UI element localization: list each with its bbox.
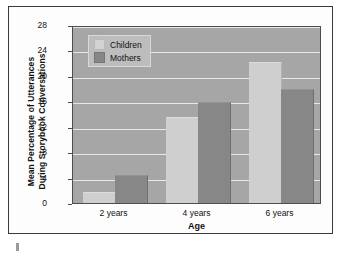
page-artifact-mark	[16, 243, 19, 251]
legend-swatch-mothers-icon	[94, 52, 105, 63]
y-tick-label: 24	[21, 45, 47, 55]
legend-item-children: Children	[94, 39, 142, 50]
bar-children-4-years	[166, 117, 199, 203]
legend-item-mothers: Mothers	[94, 52, 142, 63]
y-tick-label: 4	[21, 173, 47, 183]
gridline	[73, 27, 320, 28]
legend: Children Mothers	[88, 35, 151, 67]
plot-area: Children Mothers	[72, 26, 321, 204]
legend-label-children: Children	[110, 40, 142, 50]
legend-label-mothers: Mothers	[110, 53, 141, 63]
x-tick-label: 2 years	[72, 208, 155, 218]
x-tick-label: 4 years	[155, 208, 238, 218]
y-tick-mark	[68, 204, 72, 205]
bar-children-2-years	[83, 192, 116, 203]
gridline	[73, 78, 320, 79]
x-tick-label: 6 years	[238, 208, 321, 218]
y-tick-label: 0	[21, 198, 47, 208]
bar-mothers-2-years	[115, 175, 148, 203]
legend-swatch-children-icon	[94, 39, 105, 50]
x-axis-title: Age	[72, 221, 321, 231]
y-tick-label: 12	[21, 122, 47, 132]
chart-card: Mean Percentage of Utterances During Sto…	[8, 6, 333, 234]
figure: Mean Percentage of Utterances During Sto…	[0, 0, 343, 255]
bar-mothers-6-years	[281, 89, 314, 203]
y-tick-label: 20	[21, 71, 47, 81]
y-tick-label: 16	[21, 96, 47, 106]
y-tick-label: 8	[21, 147, 47, 157]
bar-children-6-years	[249, 62, 282, 203]
bar-mothers-4-years	[198, 102, 231, 203]
y-tick-label: 28	[21, 20, 47, 30]
